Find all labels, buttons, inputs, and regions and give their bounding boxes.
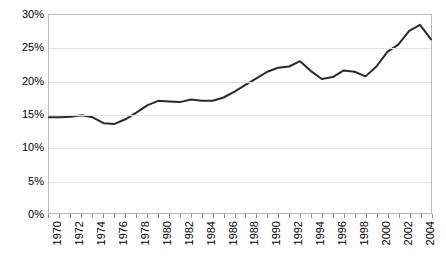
x-tick-label: 2002 <box>403 221 414 245</box>
x-tick <box>421 214 422 218</box>
x-tick-label: 1982 <box>184 221 195 245</box>
x-tick-label: 1972 <box>74 221 85 245</box>
x-tick-label: 1990 <box>271 221 282 245</box>
series-line <box>49 15 431 213</box>
x-tick <box>388 214 389 218</box>
x-tick <box>300 214 301 218</box>
x-tick <box>235 214 236 218</box>
series-polyline <box>49 25 431 124</box>
x-tick <box>70 214 71 218</box>
x-tick <box>180 214 181 218</box>
x-tick <box>114 214 115 218</box>
x-tick <box>59 214 60 218</box>
x-tick <box>256 214 257 218</box>
y-tick-label: 0% <box>0 209 44 220</box>
x-tick-label: 1984 <box>206 221 217 245</box>
x-tick-label: 1992 <box>293 221 304 245</box>
x-tick <box>169 214 170 218</box>
gridline <box>49 48 431 49</box>
x-tick <box>322 214 323 218</box>
x-tick-label: 1978 <box>140 221 151 245</box>
x-tick <box>399 214 400 218</box>
x-tick-label: 1998 <box>359 221 370 245</box>
x-tick-label: 1980 <box>162 221 173 245</box>
x-tick-label: 1996 <box>337 221 348 245</box>
x-tick <box>432 214 433 218</box>
x-tick <box>267 214 268 218</box>
x-tick <box>81 214 82 218</box>
x-tick <box>278 214 279 218</box>
x-tick <box>92 214 93 218</box>
x-tick <box>289 214 290 218</box>
y-tick-label: 15% <box>0 109 44 120</box>
x-tick <box>344 214 345 218</box>
y-tick-label: 10% <box>0 142 44 153</box>
x-tick-label: 1976 <box>118 221 129 245</box>
plot-area <box>48 14 432 214</box>
x-tick <box>125 214 126 218</box>
y-axis: 30%25%20%15%10%5%0% <box>0 0 44 264</box>
x-tick-label: 2000 <box>381 221 392 245</box>
x-tick-label: 1988 <box>249 221 260 245</box>
x-tick <box>224 214 225 218</box>
y-tick-label: 25% <box>0 42 44 53</box>
line-chart: 30%25%20%15%10%5%0% 19701972197419761978… <box>0 0 446 264</box>
x-tick <box>355 214 356 218</box>
y-tick-label: 5% <box>0 175 44 186</box>
x-tick <box>410 214 411 218</box>
x-tick <box>366 214 367 218</box>
x-tick <box>202 214 203 218</box>
y-tick-label: 30% <box>0 9 44 20</box>
x-tick-label: 1986 <box>228 221 239 245</box>
x-tick-label: 1994 <box>315 221 326 245</box>
x-tick <box>147 214 148 218</box>
x-tick <box>245 214 246 218</box>
x-tick <box>158 214 159 218</box>
x-tick <box>48 214 49 218</box>
gridline <box>49 182 431 183</box>
x-tick <box>103 214 104 218</box>
x-tick <box>136 214 137 218</box>
x-tick-label: 2004 <box>425 221 436 245</box>
gridline <box>49 148 431 149</box>
x-tick-label: 1970 <box>52 221 63 245</box>
x-tick <box>333 214 334 218</box>
x-tick <box>311 214 312 218</box>
x-tick <box>377 214 378 218</box>
x-tick-label: 1974 <box>96 221 107 245</box>
gridline <box>49 115 431 116</box>
x-tick <box>213 214 214 218</box>
x-tick <box>191 214 192 218</box>
gridline <box>49 82 431 83</box>
y-tick-label: 20% <box>0 75 44 86</box>
